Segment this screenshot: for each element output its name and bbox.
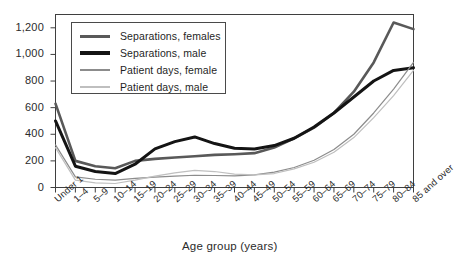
legend-item: Patient days, female (72, 62, 225, 78)
legend-item-label: Patient days, male (120, 81, 208, 93)
legend-item: Patient days, male (72, 79, 225, 95)
y-axis-tick-label: 1,200 (0, 21, 44, 33)
y-axis-tick-label: 200 (0, 154, 44, 166)
legend-swatch-line-icon (80, 86, 110, 88)
y-axis-tick-label: 600 (0, 101, 44, 113)
legend-item: Separations, females (72, 28, 225, 44)
legend-item: Separations, male (72, 45, 225, 61)
legend-swatch-line-icon (80, 51, 110, 55)
legend-swatch-line-icon (80, 35, 110, 38)
legend-item-label: Patient days, female (120, 64, 217, 76)
chart-legend: Separations, femalesSeparations, malePat… (71, 22, 226, 94)
y-axis-tick-label: 0 (0, 181, 44, 193)
y-axis-tick-label: 800 (0, 74, 44, 86)
legend-item-label: Separations, male (120, 47, 206, 59)
legend-item-label: Separations, females (120, 30, 221, 42)
y-axis-tick-label: 1,000 (0, 47, 44, 59)
y-axis-ticks (51, 28, 56, 188)
y-axis-tick-label: 400 (0, 127, 44, 139)
x-axis-title: Age group (years) (182, 240, 277, 252)
legend-swatch-line-icon (80, 69, 110, 71)
